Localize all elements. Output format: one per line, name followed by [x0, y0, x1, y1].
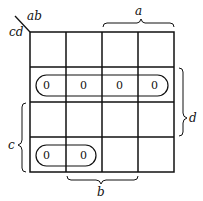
bracket-d	[179, 68, 187, 136]
bracket-b	[67, 176, 138, 184]
cell-r2c2: 0	[80, 79, 87, 92]
karnaugh-map: ab cd a d c b 0 0 0 0 0 0	[0, 0, 203, 201]
bracket-a	[103, 19, 174, 27]
col-var-label: ab	[27, 9, 42, 23]
cell-r2c3: 0	[116, 79, 123, 92]
row-var-label: cd	[9, 25, 24, 39]
cell-r4c1: 0	[43, 149, 50, 162]
bracket-a-label: a	[135, 4, 142, 18]
cell-r4c2: 0	[80, 149, 87, 162]
kmap-grid	[30, 32, 174, 172]
cell-r2c4: 0	[151, 79, 158, 92]
bracket-d-label: d	[189, 111, 197, 125]
cell-r2c1: 0	[43, 79, 50, 92]
bracket-b-label: b	[97, 185, 105, 199]
bracket-c-label: c	[8, 138, 15, 152]
bracket-c	[18, 103, 26, 172]
